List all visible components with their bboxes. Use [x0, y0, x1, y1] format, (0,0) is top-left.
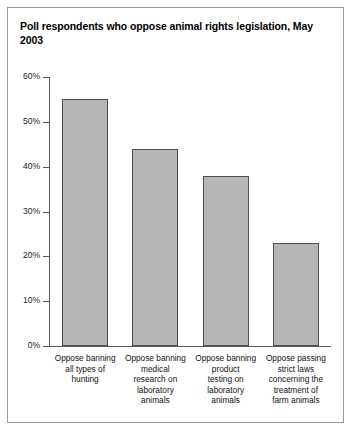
y-axis-tick: 60%: [8, 77, 49, 78]
category-label-line: strict laws: [261, 364, 331, 375]
y-axis-tick: 50%: [8, 122, 49, 123]
category-label-line: concerning the: [261, 374, 331, 385]
y-axis-tick: 0%: [8, 346, 49, 347]
y-axis-tick-mark: [43, 256, 49, 257]
category-label-line: treatment of: [261, 385, 331, 396]
y-axis-tick-mark: [43, 212, 49, 213]
y-axis-tick-label: 30%: [8, 207, 40, 216]
bar: [203, 176, 249, 346]
y-axis-tick-mark: [43, 77, 49, 78]
y-axis-tick-label: 20%: [8, 251, 40, 260]
y-axis-tick: 10%: [8, 301, 49, 302]
y-axis-tick-mark: [43, 122, 49, 123]
bar: [273, 243, 319, 346]
category-label-line: Oppose banning: [120, 353, 190, 364]
y-axis-tick-label: 60%: [8, 72, 40, 81]
y-axis-tick-label: 50%: [8, 117, 40, 126]
category-label-line: research on: [120, 374, 190, 385]
category-label-line: Oppose passing: [261, 353, 331, 364]
category-label-line: hunting: [50, 374, 120, 385]
bar-chart-plot-area: 0%10%20%30%40%50%60% Oppose banningall t…: [8, 8, 344, 423]
category-label-line: laboratory: [191, 385, 261, 396]
bar: [132, 149, 178, 346]
category-label-line: Oppose banning: [191, 353, 261, 364]
category-label-line: farm animals: [261, 395, 331, 406]
y-axis-tick-label: 40%: [8, 162, 40, 171]
y-axis-tick: 40%: [8, 167, 49, 168]
x-axis-line: [49, 346, 331, 347]
category-label: Oppose banningall types ofhunting: [50, 353, 120, 385]
bar: [62, 99, 108, 346]
y-axis-tick-mark: [43, 167, 49, 168]
y-axis-tick: 20%: [8, 256, 49, 257]
y-axis-tick: 30%: [8, 212, 49, 213]
category-label: Oppose banningproducttesting onlaborator…: [191, 353, 261, 406]
figure-frame: Poll respondents who oppose animal right…: [7, 7, 344, 423]
category-label-line: all types of: [50, 364, 120, 375]
category-label-line: product: [191, 364, 261, 375]
y-axis-tick-label: 10%: [8, 296, 40, 305]
category-label-line: Oppose banning: [50, 353, 120, 364]
category-label: Oppose passingstrict lawsconcerning thet…: [261, 353, 331, 406]
y-axis-tick-mark: [43, 301, 49, 302]
category-label-line: testing on: [191, 374, 261, 385]
category-label-line: animals: [120, 395, 190, 406]
category-label-line: medical: [120, 364, 190, 375]
category-label: Oppose banningmedicalresearch onlaborato…: [120, 353, 190, 406]
category-label-line: laboratory: [120, 385, 190, 396]
y-axis-line: [49, 77, 50, 347]
category-label-line: animals: [191, 395, 261, 406]
y-axis-tick-mark: [43, 346, 49, 347]
y-axis-tick-label: 0%: [8, 341, 40, 350]
